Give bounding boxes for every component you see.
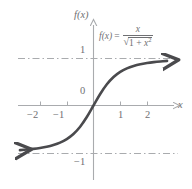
radical-group: √ 1 + x2 — [124, 37, 153, 48]
origin-label: 0 — [80, 86, 85, 97]
equation-lhs: f(x) — [99, 31, 112, 41]
equation-annotation: f(x) = x √ 1 + x2 — [99, 24, 153, 48]
equation-denominator: √ 1 + x2 — [123, 36, 154, 48]
equation-fraction: x √ 1 + x2 — [123, 24, 154, 48]
x-tick-label-minus-2: −2 — [27, 110, 39, 121]
y-tick-label-1: 1 — [80, 45, 85, 56]
radicand: 1 + x2 — [128, 37, 152, 48]
y-axis-title: f(x) — [74, 10, 89, 21]
equation-equals: = — [114, 31, 119, 41]
plot-canvas — [0, 0, 192, 189]
equation-numerator: x — [130, 24, 146, 35]
x-tick-label-1: 1 — [118, 110, 123, 121]
x-axis-title: x — [178, 100, 183, 111]
radicand-exponent: 2 — [148, 36, 151, 43]
function-graph-figure: f(x) x −2 −1 1 2 0 1 −1 f(x) = x √ 1 + x… — [0, 0, 192, 189]
radicand-constant: 1 + — [129, 38, 144, 48]
y-tick-label-minus-1: −1 — [74, 157, 86, 168]
x-tick-label-2: 2 — [145, 110, 150, 121]
x-tick-label-minus-1: −1 — [53, 110, 65, 121]
